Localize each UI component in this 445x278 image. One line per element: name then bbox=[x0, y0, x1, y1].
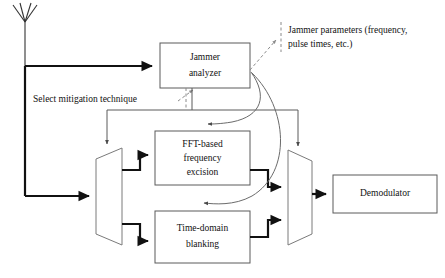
block-jammer-analyzer[interactable]: Jammer analyzer bbox=[160, 43, 250, 88]
demultiplexer-switch[interactable] bbox=[96, 148, 122, 245]
demux-to-blanking-path bbox=[122, 224, 148, 241]
demodulator-label: Demodulator bbox=[360, 188, 411, 198]
time-blanking-label-line2: blanking bbox=[186, 239, 219, 249]
blanking-to-mux-path bbox=[250, 220, 281, 237]
jammer-parameters-line2: pulse times, etc.) bbox=[288, 39, 352, 50]
analyzer-to-fft-curve bbox=[208, 72, 260, 124]
fft-excision-label-line3: excision bbox=[187, 167, 219, 177]
jammer-analyzer-label-line2: analyzer bbox=[189, 68, 222, 78]
fft-excision-label-line2: frequency bbox=[184, 153, 222, 163]
block-time-domain-blanking[interactable]: Time-domain blanking bbox=[155, 211, 250, 263]
diagram-svg: Jammer analyzer Jammer parameters (frequ… bbox=[0, 0, 445, 278]
jammer-analyzer-label-line1: Jammer bbox=[190, 52, 221, 62]
jammer-parameters-line1: Jammer parameters (frequency, bbox=[288, 25, 407, 36]
annotation-select-mitigation: Select mitigation technique bbox=[33, 88, 193, 110]
block-demodulator[interactable]: Demodulator bbox=[333, 175, 437, 213]
block-diagram-canvas: Jammer analyzer Jammer parameters (frequ… bbox=[0, 0, 445, 278]
fft-excision-label-line1: FFT-based bbox=[182, 139, 223, 149]
antenna-icon bbox=[13, 3, 37, 66]
multiplexer-switch[interactable] bbox=[288, 150, 312, 245]
select-mitigation-label: Select mitigation technique bbox=[33, 94, 137, 104]
time-blanking-label-line1: Time-domain bbox=[177, 223, 229, 233]
demux-to-fft-path bbox=[122, 155, 148, 170]
annotation-jammer-parameters: Jammer parameters (frequency, pulse time… bbox=[250, 22, 407, 70]
block-fft-frequency-excision[interactable]: FFT-based frequency excision bbox=[155, 131, 250, 185]
